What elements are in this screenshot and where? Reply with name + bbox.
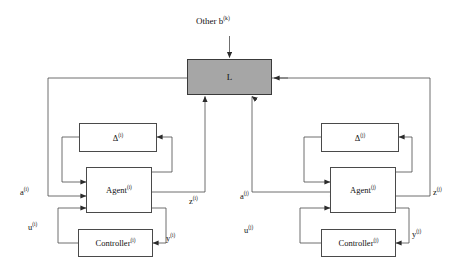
delta-block-i[interactable]: Δ(i)	[79, 123, 157, 152]
signal-label-a-i: a(i)	[20, 187, 29, 197]
wire-agent-j-to-controller-j	[396, 208, 409, 243]
delta-block-j-label: Δ(j)	[355, 133, 365, 143]
wire-agent-i-z-to-L	[152, 97, 205, 193]
diagram-canvas: Other b(k) L Δ(i) Agent(i) Controller(i)…	[0, 0, 456, 280]
delta-block-i-label: Δ(i)	[113, 133, 123, 143]
agent-block-j-label: Agent(j)	[350, 185, 376, 195]
agent-block-j[interactable]: Agent(j)	[330, 167, 396, 213]
signal-label-z-i: z(i)	[189, 196, 198, 206]
signal-label-u-j: u(j)	[244, 225, 253, 235]
controller-block-i[interactable]: Controller(i)	[78, 229, 153, 257]
agent-block-i-label: Agent(i)	[106, 185, 132, 195]
signal-label-u-i: u(i)	[28, 222, 37, 232]
controller-block-j-label: Controller(j)	[339, 238, 379, 248]
controller-block-i-label: Controller(i)	[96, 238, 136, 248]
agent-block-i[interactable]: Agent(i)	[86, 167, 152, 213]
coupling-block-L-label: L	[227, 72, 233, 82]
coupling-block-L[interactable]: L	[187, 59, 272, 95]
signal-label-y-i: y(i)	[166, 233, 175, 243]
delta-block-j[interactable]: Δ(j)	[321, 123, 399, 152]
external-input-label: Other b(k)	[196, 16, 230, 26]
wire-agent-i-to-controller-i	[152, 208, 166, 243]
controller-block-j[interactable]: Controller(j)	[321, 229, 396, 257]
signal-label-z-j: z(j)	[433, 187, 442, 197]
signal-label-y-j: y(j)	[412, 229, 421, 239]
signal-label-a-j: a(j)	[240, 191, 249, 201]
